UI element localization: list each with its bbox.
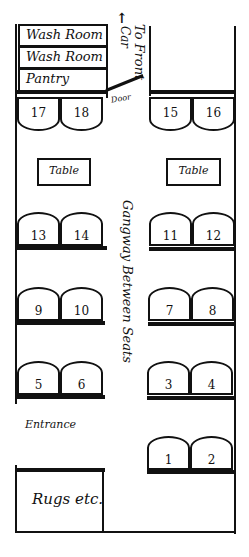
seat-8[interactable]: 8 xyxy=(191,287,234,321)
rail-1-2 xyxy=(147,470,235,474)
pantry: Pantry xyxy=(18,68,108,92)
table-right: Table xyxy=(166,158,221,186)
right-partition xyxy=(149,26,151,96)
rail-3-4 xyxy=(147,396,235,400)
left-wall xyxy=(15,24,17,404)
washroom-1-label: Wash Room xyxy=(26,27,103,42)
seat-17[interactable]: 17 xyxy=(17,97,60,131)
rugs-label: Rugs etc. xyxy=(32,490,103,508)
arrow-up-icon: ↑ xyxy=(116,10,128,26)
washroom-2-label: Wash Room xyxy=(26,49,103,64)
seat-2[interactable]: 2 xyxy=(190,436,233,470)
rail-11-12 xyxy=(149,247,235,251)
seat-5[interactable]: 5 xyxy=(17,361,60,395)
rail-9-10 xyxy=(17,321,105,325)
seat-4[interactable]: 4 xyxy=(190,361,233,395)
seat-7[interactable]: 7 xyxy=(148,287,191,321)
to-front-label: To Front xyxy=(132,24,147,80)
seat-18[interactable]: 18 xyxy=(60,97,103,131)
seat-10[interactable]: 10 xyxy=(60,287,103,321)
rail-5-6 xyxy=(17,395,105,399)
seat-9[interactable]: 9 xyxy=(17,287,60,321)
seat-6[interactable]: 6 xyxy=(60,361,103,395)
front-rail-right xyxy=(151,90,235,94)
car-label: Car xyxy=(118,26,132,48)
door xyxy=(105,74,143,92)
washroom-1: Wash Room xyxy=(18,24,108,47)
seat-13[interactable]: 13 xyxy=(17,212,60,246)
pantry-label: Pantry xyxy=(26,71,69,86)
seat-16[interactable]: 16 xyxy=(192,97,235,131)
seat-3[interactable]: 3 xyxy=(147,361,190,395)
seat-11[interactable]: 11 xyxy=(149,212,192,246)
rail-7-8 xyxy=(148,322,235,326)
table-left: Table xyxy=(37,158,91,186)
front-rail-left xyxy=(17,90,108,94)
gangway-label: Gangway Between Seats xyxy=(120,200,135,363)
seat-1[interactable]: 1 xyxy=(147,436,190,470)
seat-12[interactable]: 12 xyxy=(192,212,235,246)
rail-13-14 xyxy=(17,246,107,250)
seat-14[interactable]: 14 xyxy=(60,212,103,246)
door-label: Door xyxy=(110,92,131,104)
washroom-2: Wash Room xyxy=(18,46,108,69)
entrance-label: Entrance xyxy=(25,418,76,431)
seat-15[interactable]: 15 xyxy=(149,97,192,131)
